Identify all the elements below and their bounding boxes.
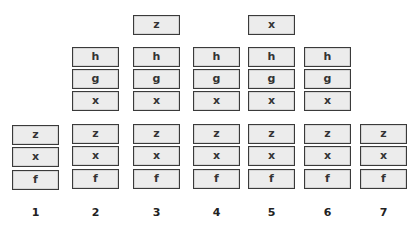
frame-box-h: h	[133, 47, 180, 67]
column-7: z x f 7	[360, 0, 407, 232]
frame-box-g: g	[248, 69, 295, 89]
frame-box-h: h	[193, 47, 240, 67]
column-1: z x f 1	[12, 0, 59, 232]
stack-box-x: x	[304, 146, 351, 166]
frame-box-h: h	[72, 47, 119, 67]
stack-box-x: x	[72, 146, 119, 166]
stack-box-f: f	[304, 169, 351, 189]
stack-box-f: f	[193, 169, 240, 189]
stack-box-f: f	[12, 170, 59, 190]
frame-box-g: g	[72, 69, 119, 89]
column-label: 2	[72, 206, 119, 219]
stack-box-x: x	[12, 147, 59, 167]
frame-box-x: x	[193, 91, 240, 111]
frame-box-x: x	[133, 91, 180, 111]
stack-box-z: z	[12, 125, 59, 145]
stack-box-z: z	[360, 124, 407, 144]
column-4: h g x z x f 4	[193, 0, 240, 232]
frame-box-h: h	[248, 47, 295, 67]
stack-box-z: z	[193, 124, 240, 144]
column-label: 7	[360, 206, 407, 219]
column-label: 1	[12, 206, 59, 219]
frame-box-g: g	[193, 69, 240, 89]
stack-box-z: z	[133, 124, 180, 144]
frame-box-x: x	[304, 91, 351, 111]
stack-box-f: f	[133, 169, 180, 189]
frame-box-g: g	[304, 69, 351, 89]
column-5: x h g x z x f 5	[248, 0, 295, 232]
stack-box-x: x	[193, 146, 240, 166]
column-label: 6	[304, 206, 351, 219]
stack-box-f: f	[248, 169, 295, 189]
stack-box-f: f	[360, 169, 407, 189]
stack-box-z: z	[248, 124, 295, 144]
column-label: 4	[193, 206, 240, 219]
stack-box-f: f	[72, 169, 119, 189]
column-2: h g x z x f 2	[72, 0, 119, 232]
frame-box-g: g	[133, 69, 180, 89]
stack-box-z: z	[304, 124, 351, 144]
column-label: 3	[133, 206, 180, 219]
frame-box-h: h	[304, 47, 351, 67]
column-6: h g x z x f 6	[304, 0, 351, 232]
stack-box-x: x	[248, 146, 295, 166]
frame-box-x: x	[248, 91, 295, 111]
stack-box-z: z	[72, 124, 119, 144]
stack-box-x: x	[133, 146, 180, 166]
stack-box-x: x	[360, 146, 407, 166]
column-label: 5	[248, 206, 295, 219]
frame-box-x: x	[248, 15, 295, 35]
frame-box-x: x	[72, 91, 119, 111]
frame-box-z: z	[133, 15, 180, 35]
column-3: z h g x z x f 3	[133, 0, 180, 232]
